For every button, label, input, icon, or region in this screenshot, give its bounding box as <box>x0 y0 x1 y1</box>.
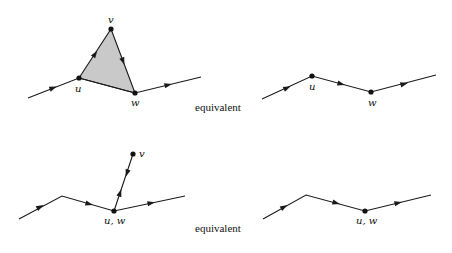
vertex-u-w <box>111 208 116 213</box>
vertex-u-w <box>362 208 367 213</box>
arrowhead-icon <box>394 200 403 207</box>
vertex-label: u, w <box>104 215 126 226</box>
shaded-face-layer <box>79 29 135 93</box>
vertex-label: u <box>75 83 81 94</box>
labels-layer: uvwuwequivalentu, wvu, wequivalent <box>75 14 378 234</box>
vertex-label: w <box>368 97 377 108</box>
bottom-left-spur-edge <box>114 154 133 211</box>
equivalent-label: equivalent <box>195 101 241 113</box>
arrowhead-icon <box>123 169 130 178</box>
equivalent-label: equivalent <box>195 222 241 234</box>
arrowhead-icon <box>280 203 289 211</box>
bottom-left-path <box>19 196 185 219</box>
arrowhead-icon <box>85 201 94 208</box>
equivalence-diagram: uvwuwequivalentu, wvu, wequivalent <box>0 0 452 253</box>
vertex-v <box>130 151 135 156</box>
vertex-label: u <box>309 81 315 92</box>
vertex-label: u, w <box>356 215 378 226</box>
vertex-w <box>368 89 373 94</box>
vertex-label: w <box>131 97 140 108</box>
arrowhead-icon <box>116 188 123 197</box>
vertex-u <box>309 73 314 78</box>
arrowhead-icon <box>49 84 58 92</box>
arrowhead-icon <box>400 80 409 87</box>
bottom-right-path <box>263 195 431 219</box>
vertex-label: v <box>108 14 114 25</box>
vertex-label: v <box>139 148 145 159</box>
arrowhead-icon <box>283 84 292 92</box>
vertex-v <box>108 26 113 31</box>
arrowhead-icon <box>164 82 173 89</box>
arrowhead-icon <box>337 81 346 88</box>
shaded-triangle-face <box>79 29 135 93</box>
arrowhead-icon <box>332 200 341 207</box>
vertex-w <box>132 90 137 95</box>
vertex-u <box>76 75 81 80</box>
